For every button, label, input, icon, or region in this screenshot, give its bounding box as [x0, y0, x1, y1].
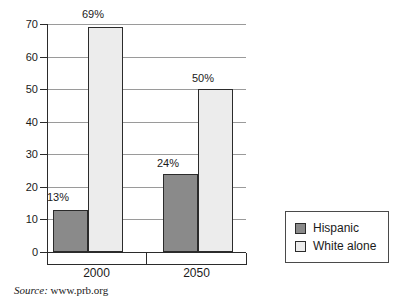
y-axis-tick-20 [40, 187, 47, 188]
legend-swatch-white-alone [295, 241, 306, 252]
x-axis-label-2000: 2000 [47, 267, 146, 280]
source-label: Source: [14, 284, 48, 296]
x-axis-tick-middle [146, 253, 147, 265]
x-axis-tick-left [47, 253, 48, 265]
y-axis-tick-60 [40, 57, 47, 58]
y-axis-label-0: 0 [10, 247, 38, 258]
y-axis-tick-70 [40, 24, 47, 25]
y-axis-label-30: 30 [10, 149, 38, 160]
y-axis-label-40: 40 [10, 117, 38, 128]
legend: Hispanic White alone [285, 211, 389, 263]
y-axis-tick-10 [40, 219, 47, 220]
y-axis-tick-50 [40, 89, 47, 90]
y-axis-label-70: 70 [10, 19, 38, 30]
legend-label-white-alone: White alone [313, 240, 376, 253]
source-url: www.prb.org [51, 284, 109, 296]
y-axis-tick-30 [40, 154, 47, 155]
value-label-2000-hispanic: 13% [38, 192, 78, 203]
y-axis-tick-0 [40, 252, 47, 253]
value-label-2050-hispanic: 24% [148, 158, 188, 169]
legend-label-hispanic: Hispanic [313, 222, 359, 235]
y-axis-line [47, 24, 48, 253]
value-label-2050-white-alone: 50% [183, 73, 223, 84]
bar-2050-white-alone [198, 89, 233, 252]
y-axis-label-50: 50 [10, 84, 38, 95]
bar-2000-white-alone [88, 27, 123, 252]
y-axis-label-60: 60 [10, 52, 38, 63]
y-axis-label-20: 20 [10, 182, 38, 193]
plot-area [47, 24, 246, 252]
bar-2050-hispanic [163, 174, 198, 252]
y-axis-label-10: 10 [10, 214, 38, 225]
gridline-60 [47, 57, 246, 58]
legend-swatch-hispanic [295, 223, 306, 234]
legend-item-hispanic: Hispanic [295, 219, 388, 237]
legend-item-white-alone: White alone [295, 237, 388, 255]
source-note: Source: www.prb.org [14, 284, 108, 297]
chart-title-cropped [0, 0, 399, 4]
bar-chart: 70 60 50 40 30 20 10 0 13% 69% 24% 50% [0, 0, 399, 305]
x-axis-label-2050: 2050 [147, 267, 246, 280]
y-axis-tick-40 [40, 122, 47, 123]
x-axis-tick-right [246, 253, 247, 265]
value-label-2000-white-alone: 69% [73, 9, 113, 20]
gridline-70 [47, 24, 246, 25]
bar-2000-hispanic [53, 210, 88, 252]
